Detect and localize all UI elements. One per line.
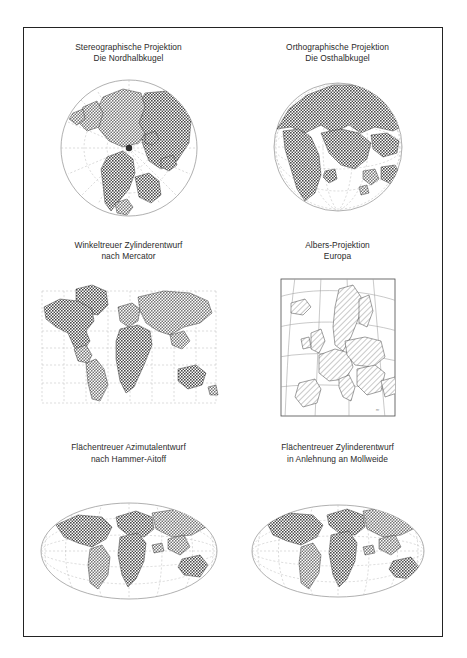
panel-caption-mercator: Winkeltreuer Zylinderentwurf nach Mercat… — [75, 240, 183, 263]
map-orthographic-east — [233, 65, 442, 231]
panel-mercator: Winkeltreuer Zylinderentwurf nach Mercat… — [24, 231, 233, 434]
projection-panel-grid: Stereographische Projektion Die Nordhalb… — [24, 28, 442, 636]
panel-hammer-aitoff: Flächentreuer Azimutalentwurf nach Hamme… — [24, 433, 233, 636]
panel-caption-orthographic-east: Orthographische Projektion Die Osthalbku… — [286, 42, 389, 65]
panel-caption-mollweide: Flächentreuer Zylinderentwurf in Anlehnu… — [281, 442, 394, 465]
map-hammer-aitoff — [24, 465, 233, 636]
panel-mollweide: Flächentreuer Zylinderentwurf in Anlehnu… — [233, 433, 442, 636]
map-mercator — [24, 262, 233, 433]
panel-albers-europa: Albers-Projektion Europa — [233, 231, 442, 434]
figure-border: Stereographische Projektion Die Nordhalb… — [23, 27, 443, 637]
panel-orthographic-east: Orthographische Projektion Die Osthalbku… — [233, 28, 442, 231]
albers-corner-mark: mr — [376, 408, 379, 412]
map-stereographic-north — [24, 65, 233, 231]
panel-stereographic-north: Stereographische Projektion Die Nordhalb… — [24, 28, 233, 231]
map-mollweide — [233, 465, 442, 636]
panel-caption-stereographic-north: Stereographische Projektion Die Nordhalb… — [75, 42, 182, 65]
panel-caption-hammer-aitoff: Flächentreuer Azimutalentwurf nach Hamme… — [71, 442, 186, 465]
panel-caption-albers-europa: Albers-Projektion Europa — [305, 240, 370, 263]
map-albers-europa: mr — [233, 262, 442, 433]
